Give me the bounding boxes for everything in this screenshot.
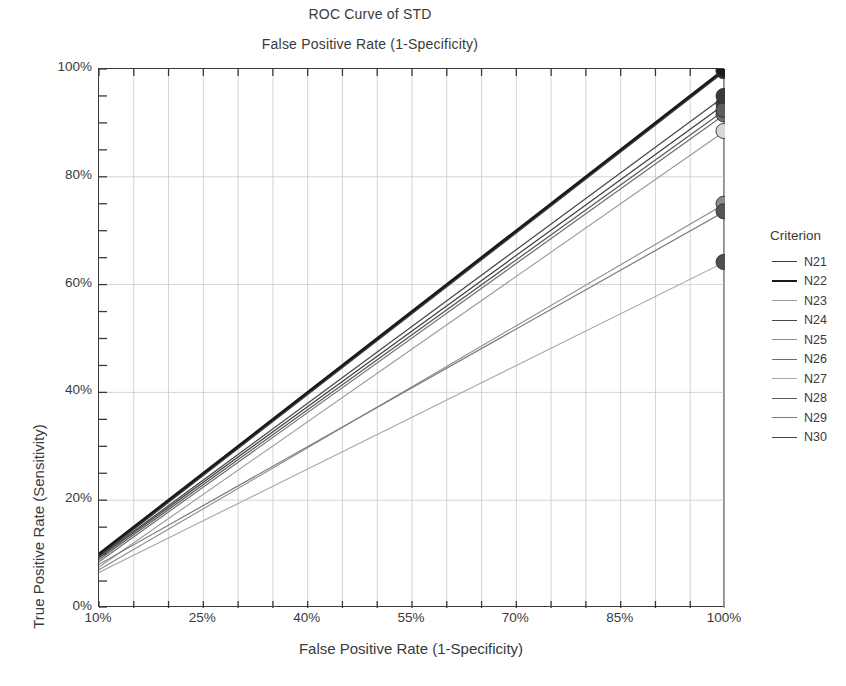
x-tick-label: 85%	[606, 610, 633, 625]
chart-title: ROC Curve of STD	[0, 6, 740, 22]
series-endpoint-markers	[716, 69, 725, 269]
legend-label: N30	[804, 430, 827, 444]
top-axis-minor-ticks	[99, 69, 725, 76]
legend-items: N21N22N23N24N25N26N27N28N29N30	[772, 252, 846, 447]
y-axis-minor-ticks	[99, 69, 107, 608]
x-tick-label: 100%	[707, 610, 742, 625]
legend-label: N24	[804, 313, 827, 327]
legend: Criterion N21N22N23N24N25N26N27N28N29N30	[772, 228, 846, 447]
y-tick-label: 20%	[34, 490, 92, 505]
y-tick-label: 40%	[34, 382, 92, 397]
legend-label: N26	[804, 352, 827, 366]
y-axis-tick-labels: 0%20%40%60%80%100%	[30, 68, 92, 607]
legend-label: N21	[804, 255, 827, 269]
legend-swatch-icon	[772, 261, 797, 262]
y-tick-label: 60%	[34, 275, 92, 290]
legend-swatch-icon	[772, 320, 797, 321]
y-tick-label: 100%	[34, 59, 92, 74]
legend-label: N25	[804, 333, 827, 347]
legend-swatch-icon	[772, 417, 797, 418]
legend-swatch-icon	[772, 339, 797, 340]
legend-item-n30[interactable]: N30	[772, 428, 846, 448]
legend-swatch-icon	[772, 280, 797, 282]
roc-chart-page: ROC Curve of STD False Positive Rate (1-…	[0, 0, 846, 686]
legend-item-n22[interactable]: N22	[772, 272, 846, 292]
legend-item-n24[interactable]: N24	[772, 311, 846, 331]
legend-swatch-icon	[772, 359, 797, 360]
y-tick-label: 0%	[34, 598, 92, 613]
x-axis-title: False Positive Rate (1-Specificity)	[98, 640, 724, 657]
legend-label: N22	[804, 274, 827, 288]
legend-label: N28	[804, 391, 827, 405]
legend-item-n29[interactable]: N29	[772, 408, 846, 428]
legend-item-n26[interactable]: N26	[772, 350, 846, 370]
roc-curves-svg	[99, 69, 725, 608]
legend-item-n23[interactable]: N23	[772, 291, 846, 311]
endpoint-marker-n27	[716, 254, 725, 269]
legend-title: Criterion	[770, 228, 846, 243]
legend-swatch-icon	[772, 398, 797, 399]
x-tick-label: 25%	[189, 610, 216, 625]
legend-item-n21[interactable]: N21	[772, 252, 846, 272]
plot-area	[98, 68, 724, 607]
legend-swatch-icon	[772, 378, 797, 379]
legend-item-n25[interactable]: N25	[772, 330, 846, 350]
y-tick-label: 80%	[34, 167, 92, 182]
legend-label: N29	[804, 411, 827, 425]
legend-swatch-icon	[772, 300, 797, 301]
x-axis-tick-labels: 10%25%40%55%70%85%100%	[98, 610, 724, 632]
legend-swatch-icon	[772, 437, 797, 438]
x-tick-label: 55%	[397, 610, 424, 625]
legend-item-n28[interactable]: N28	[772, 389, 846, 409]
x-tick-label: 40%	[293, 610, 320, 625]
x-tick-label: 70%	[502, 610, 529, 625]
legend-label: N23	[804, 294, 827, 308]
x-axis-minor-ticks	[99, 601, 725, 608]
x-tick-label: 10%	[84, 610, 111, 625]
chart-subtitle: False Positive Rate (1-Specificity)	[0, 36, 740, 52]
legend-label: N27	[804, 372, 827, 386]
legend-item-n27[interactable]: N27	[772, 369, 846, 389]
